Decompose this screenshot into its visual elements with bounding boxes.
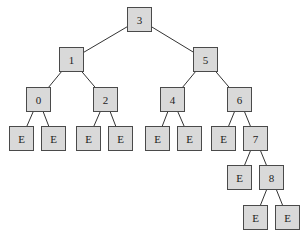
node-label: 6 [237,94,243,106]
empty-leaf-node: E [243,205,268,230]
empty-leaf-node: E [76,126,101,151]
tree-edge [49,72,61,87]
tree-node-3: 3 [127,7,152,32]
tree-edge [245,151,251,165]
tree-node-4: 4 [160,87,185,112]
tree-edge [229,112,235,126]
tree-edge [261,190,267,205]
empty-leaf-node: E [108,126,133,151]
node-label: E [154,133,161,145]
empty-leaf-node: E [275,205,300,230]
tree-edge [178,112,184,126]
tree-edge [261,151,267,165]
tree-edge [162,112,167,126]
node-label: 5 [203,54,209,66]
tree-node-0: 0 [26,87,51,112]
tree-edge [84,27,127,52]
node-label: E [186,133,193,145]
node-label: E [18,133,25,145]
tree-node-8: 8 [259,165,284,190]
tree-edge [82,72,95,87]
node-label: E [50,133,57,145]
node-label: 8 [269,172,275,184]
node-label: E [252,212,259,224]
tree-edge [152,27,193,52]
node-label: E [220,133,227,145]
tree-edge [43,112,48,126]
empty-leaf-node: E [145,126,170,151]
tree-edge [27,112,33,126]
node-label: 2 [103,94,109,106]
tree-node-1: 1 [59,47,84,72]
empty-leaf-node: E [227,165,252,190]
node-label: E [284,212,291,224]
node-label: 4 [170,94,176,106]
node-label: E [85,133,92,145]
node-label: 7 [253,133,259,145]
tree-edge [216,72,229,87]
empty-leaf-node: E [41,126,66,151]
node-label: 0 [36,94,42,106]
node-label: 1 [69,54,75,66]
empty-leaf-node: E [177,126,202,151]
tree-edge [110,112,115,126]
tree-node-7: 7 [243,126,268,151]
tree-edge [245,112,251,126]
empty-leaf-node: E [211,126,236,151]
tree-edge [277,190,283,205]
node-label: E [117,133,124,145]
node-label: 3 [137,14,143,26]
tree-node-2: 2 [93,87,118,112]
node-label: E [236,172,243,184]
empty-leaf-node: E [9,126,34,151]
tree-node-6: 6 [227,87,252,112]
tree-edge [183,72,195,87]
tree-edge [94,112,100,126]
tree-node-5: 5 [193,47,218,72]
